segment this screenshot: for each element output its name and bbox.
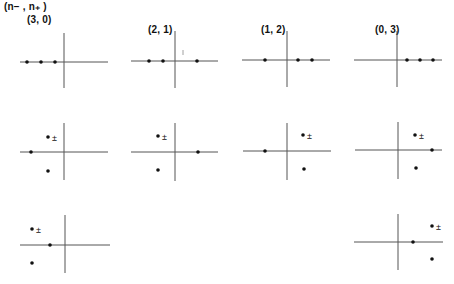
root-dot xyxy=(147,59,151,63)
root-dot xyxy=(414,166,418,170)
root-dot xyxy=(413,133,417,137)
panel-r3-4: ± xyxy=(354,214,443,270)
plus-minus-label: ± xyxy=(307,131,312,141)
panel-3-0 xyxy=(20,33,108,88)
root-dot xyxy=(53,60,57,64)
diagram-canvas: ±±±±±± xyxy=(0,0,454,284)
root-dot xyxy=(46,135,50,139)
panel-r2-3: ± xyxy=(243,123,331,180)
plus-minus-label: ± xyxy=(52,133,57,143)
root-dot xyxy=(296,58,300,62)
root-dot xyxy=(161,59,165,63)
plus-minus-label: ± xyxy=(436,222,441,232)
root-dot xyxy=(39,60,43,64)
root-dot xyxy=(430,148,434,152)
root-dot xyxy=(156,134,160,138)
panel-r2-2: ± xyxy=(131,123,218,181)
root-dot xyxy=(30,261,34,265)
panel-1-2 xyxy=(242,31,330,87)
root-dot xyxy=(48,243,52,247)
root-dot xyxy=(310,58,314,62)
plus-minus-label: ± xyxy=(162,132,167,142)
root-dot xyxy=(29,150,33,154)
root-dot xyxy=(263,58,267,62)
panel-0-3 xyxy=(354,31,442,87)
root-dot xyxy=(411,240,415,244)
panel-r2-1: ± xyxy=(20,123,108,180)
root-dot xyxy=(46,169,50,173)
plus-minus-label: ± xyxy=(36,225,41,235)
root-dot xyxy=(263,149,267,153)
panel-r2-4: ± xyxy=(355,122,442,179)
root-dot xyxy=(431,58,435,62)
panel-2-1 xyxy=(131,31,218,88)
root-dot xyxy=(25,60,29,64)
root-dot xyxy=(302,167,306,171)
plus-minus-label: ± xyxy=(419,131,424,141)
root-dot xyxy=(196,150,200,154)
root-dot xyxy=(430,224,434,228)
root-dot xyxy=(195,59,199,63)
root-dot xyxy=(430,257,434,261)
root-dot xyxy=(301,133,305,137)
root-dot xyxy=(156,168,160,172)
root-dot xyxy=(30,227,34,231)
root-dot xyxy=(405,58,409,62)
panel-r3-1: ± xyxy=(20,215,110,273)
root-dot xyxy=(418,58,422,62)
